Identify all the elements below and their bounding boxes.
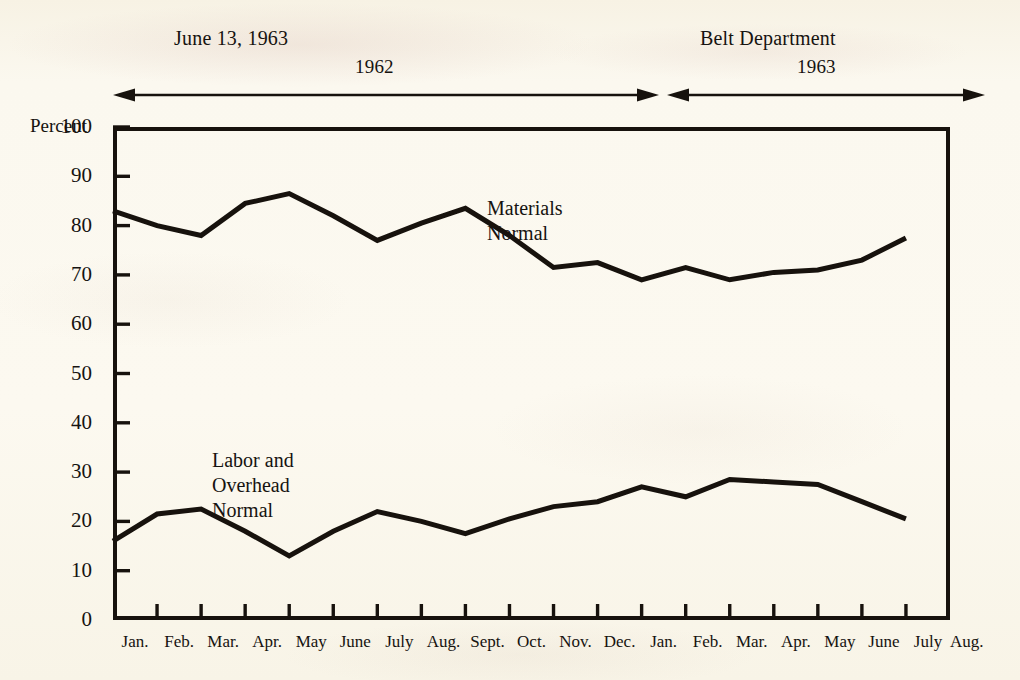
x-tick-label: Aug. xyxy=(927,633,1007,651)
chart-canvas xyxy=(0,0,1020,680)
y-tick-label: 20 xyxy=(24,510,92,531)
y-tick-label: 10 xyxy=(24,560,92,581)
y-tick-label: 80 xyxy=(24,215,92,236)
y-tick-label: 0 xyxy=(24,609,92,630)
y-tick-label: 60 xyxy=(24,313,92,334)
y-tick-label: 90 xyxy=(24,165,92,186)
series-label-materials: Materials Normal xyxy=(487,196,563,246)
y-tick-label: 100 xyxy=(24,116,92,137)
y-tick-label: 70 xyxy=(24,264,92,285)
y-tick-label: 50 xyxy=(24,363,92,384)
y-tick-label: 40 xyxy=(24,412,92,433)
y-tick-label: 30 xyxy=(24,461,92,482)
chart-page: June 13, 1963 Belt Department 1962 1963 … xyxy=(0,0,1020,680)
series-label-labor-overhead: Labor and Overhead Normal xyxy=(212,448,294,523)
